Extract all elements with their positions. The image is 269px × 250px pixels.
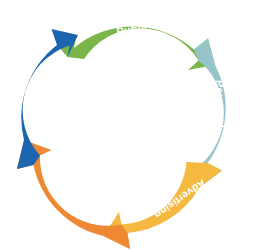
- segment-sales-promotion[interactable]: Sales promotion: [17, 29, 78, 169]
- segment-advertising-label: Advertising: [152, 177, 208, 221]
- segment-public-relations[interactable]: Public relations: [57, 20, 215, 70]
- circular-arrow-cycle: Public relations Personal selling Advert…: [0, 0, 269, 250]
- promotion-mix-diagram: Public relations Personal selling Advert…: [0, 0, 269, 250]
- segment-personal-selling-label-line-2: selling: [202, 86, 214, 122]
- segment-personal-selling-label-line-1: Personal: [214, 80, 226, 128]
